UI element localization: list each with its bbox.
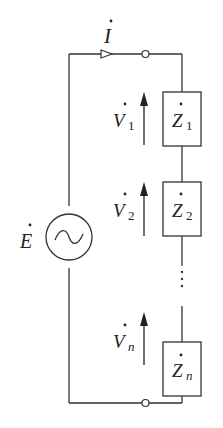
ellipsis-icon — [181, 271, 183, 287]
impedance-label-n: Z — [172, 360, 183, 381]
voltage-sub-1: 1 — [128, 118, 135, 133]
voltage-arrow-n-icon — [140, 312, 148, 326]
current-arrow-icon — [101, 50, 112, 58]
circuit-svg: I E V 1 Z 1 V 2 Z 2 V n Z n — [0, 0, 223, 428]
impedance-sub-n: n — [186, 368, 193, 383]
voltage-label-1: V — [113, 110, 127, 131]
voltage-label-n: V — [113, 331, 127, 352]
terminal-top-icon — [142, 51, 149, 58]
impedance-label-2: Z — [172, 200, 183, 221]
voltage-sub-n: n — [128, 339, 135, 354]
voltage-arrows — [140, 92, 148, 365]
voltage-arrow-2-icon — [140, 182, 148, 196]
voltage-arrow-1-icon — [140, 92, 148, 106]
impedance-sub-1: 1 — [186, 118, 193, 133]
circuit-diagram: I E V 1 Z 1 V 2 Z 2 V n Z n — [0, 0, 223, 428]
source-label: E — [19, 230, 32, 252]
impedance-sub-2: 2 — [186, 208, 193, 223]
impedance-label-1: Z — [172, 110, 183, 131]
voltage-label-2: V — [113, 200, 127, 221]
phasor-dots — [29, 20, 183, 357]
current-label: I — [103, 24, 112, 48]
terminal-bottom-icon — [142, 400, 149, 407]
voltage-sub-2: 2 — [128, 208, 135, 223]
